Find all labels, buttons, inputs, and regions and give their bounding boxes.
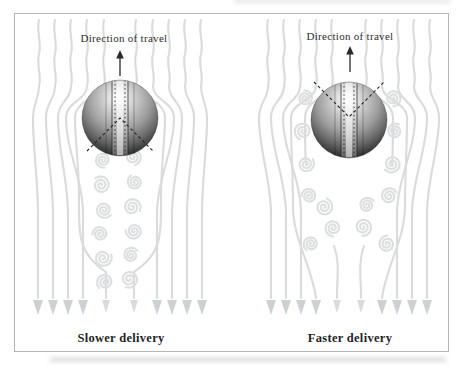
aerodynamics-diagram: Direction of travel Slower delivery Dire… [0,0,464,365]
vortex-spiral-icon [360,198,373,211]
vortex-spiral-icon [128,175,141,188]
vortex-spiral-icon [96,252,112,266]
streamline-path [134,20,165,298]
streamline-path [168,20,182,298]
flow-arrowhead-icon [407,300,417,315]
vortex-spiral-icon [97,204,111,218]
cricket-ball [311,82,387,158]
flow-arrowhead-icon [152,300,162,315]
streamline-path [33,20,40,298]
streamline-path [58,20,72,298]
flow-arrowheads [33,300,207,315]
streamline-path [381,20,407,298]
panel-caption: Slower delivery [77,331,165,345]
vortex-spiral-icon [382,188,397,202]
direction-label: Direction of travel [307,30,394,42]
vortex-spiral-icon [379,236,393,251]
flow-arrowhead-icon [102,300,110,313]
vortex-spiral-icon [92,227,106,240]
streamline-path [184,20,194,298]
streamlines [259,20,439,298]
streamline-path [46,20,56,298]
flow-arrowhead-icon [78,300,88,315]
vortex-spiral-icon [125,199,141,213]
flow-arrowhead-icon [48,300,58,315]
seam-core-highlight [346,82,352,158]
flow-arrowhead-icon [182,300,192,315]
travel-arrow-head [346,46,354,55]
flow-arrowhead-icon [197,300,207,315]
vortex-spiral-icon [387,91,401,106]
vortex-spiral-icon [301,189,315,202]
direction-label: Direction of travel [81,32,168,44]
vortex-spiral-icon [325,221,339,236]
travel-arrow-head [116,50,124,59]
panel-caption: Faster delivery [308,331,393,345]
flow-arrowhead-icon [266,300,276,315]
flow-arrowhead-icon [357,300,365,313]
vortex-spiral-icon [304,237,317,250]
flow-arrowhead-icon [167,300,177,315]
flow-arrowhead-icon [296,300,306,315]
streamline-path [360,246,364,298]
flow-arrowhead-icon [422,300,432,315]
flow-arrowhead-icon [281,300,291,315]
figure-cricket-ball-aerodynamics: Direction of travel Slower delivery Dire… [0,0,464,365]
vortex-spiral-icon [318,199,333,215]
flow-arrowhead-icon [63,300,73,315]
streamline-path [271,20,286,298]
streamline-path [200,20,207,298]
streamline-path [412,20,427,298]
vortex-spiral-icon [96,154,108,168]
flow-arrowhead-icon [377,300,387,315]
flow-arrowhead-icon [33,300,43,315]
vortex-spiral-icon [295,124,310,140]
flow-arrowheads [266,300,432,315]
streamline-path [259,20,271,298]
flow-arrowhead-icon [311,300,321,315]
vortex-spiral-icon [126,225,141,239]
vortex-spiral-icon [97,275,111,288]
streamline-path [334,246,338,298]
flow-arrowhead-icon [392,300,402,315]
flow-arrowhead-icon [333,300,341,313]
vortex-spiral-icon [388,123,400,137]
vortex-spiral-icon [124,248,137,261]
travel-arrow-icon [116,50,124,76]
panel-slower-delivery: Direction of travel Slower delivery [33,20,207,345]
panel-faster-delivery: Direction of travel Faster delivery [259,20,439,345]
flow-arrowhead-icon [130,300,138,313]
vortex-spiral-icon [95,176,109,191]
vortex-spiral-icon [357,220,371,236]
travel-arrow-icon [346,46,354,72]
streamline-path [427,20,439,298]
